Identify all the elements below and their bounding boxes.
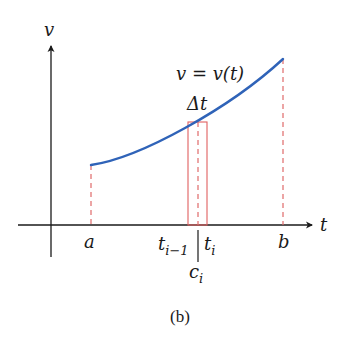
figure-caption: (b): [170, 307, 190, 326]
y-axis-label: v: [44, 19, 54, 40]
t-i-label: ti: [204, 233, 215, 258]
riemann-sum-diagram: v t v = v(t) Δt a b ti−1 ti ci (b): [0, 0, 345, 344]
subinterval-rectangle: [188, 122, 207, 225]
curve-label: v = v(t): [176, 63, 244, 84]
x-axis-label: t: [320, 214, 328, 235]
t-i-minus-1-label: ti−1: [158, 233, 189, 258]
interval-start-label: a: [84, 231, 95, 252]
delta-t-label: Δt: [186, 93, 208, 114]
c-i-label: ci: [189, 261, 203, 286]
interval-end-label: b: [278, 231, 290, 252]
